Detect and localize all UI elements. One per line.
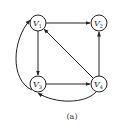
figure-caption: (a) [0, 112, 117, 121]
node-v2: V2 [91, 15, 107, 31]
edge-v3-v1-curved [16, 20, 32, 90]
node-v3: V3 [30, 76, 46, 92]
node-v1: V1 [30, 15, 46, 31]
node-v4: V4 [91, 76, 107, 92]
edge-v4-v3-curved [38, 92, 96, 101]
edge-v4-v1 [44, 29, 93, 78]
